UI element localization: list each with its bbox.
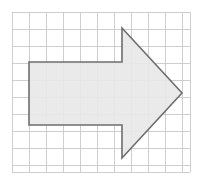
figure-canvas xyxy=(0,0,203,184)
arrow-on-grid-figure xyxy=(0,0,203,184)
